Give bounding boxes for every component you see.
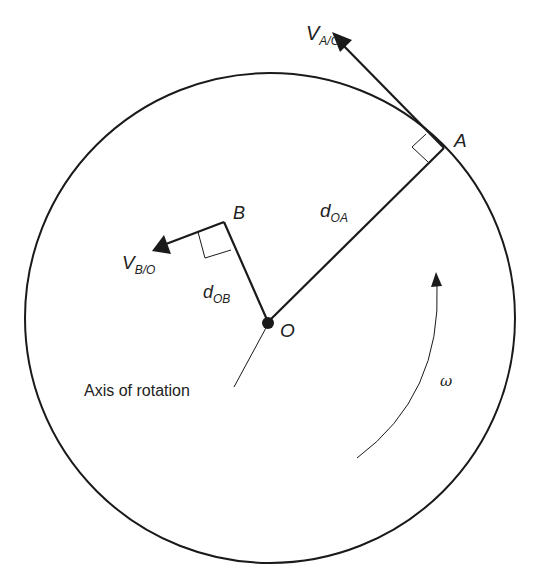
distance-oa-label: dOA xyxy=(320,200,348,222)
velocity-b-subscript: B/O xyxy=(135,263,156,277)
velocity-a-symbol: V xyxy=(306,22,319,44)
axis-of-rotation-label: Axis of rotation xyxy=(84,382,190,400)
velocity-b-label: VB/O xyxy=(122,252,155,274)
velocity-a-arrow xyxy=(338,40,444,148)
radius-ob-line xyxy=(224,222,268,322)
distance-oa-symbol: d xyxy=(320,200,331,221)
omega-arrowhead-icon xyxy=(431,272,442,287)
velocity-b-symbol: V xyxy=(122,252,135,273)
right-angle-a-icon xyxy=(412,134,428,162)
point-a-label: A xyxy=(454,130,467,152)
velocity-a-label: VA/O xyxy=(306,22,340,45)
distance-ob-subscript: OB xyxy=(213,292,230,306)
velocity-b-arrow xyxy=(166,222,224,244)
center-point-o xyxy=(262,317,274,329)
radius-oa-line xyxy=(268,148,444,322)
right-angle-b-icon xyxy=(198,232,231,258)
omega-rotation-arc xyxy=(357,284,437,458)
axis-leader-line xyxy=(234,326,267,387)
distance-ob-symbol: d xyxy=(203,282,213,302)
diagram-canvas xyxy=(0,0,535,580)
distance-ob-label: dOB xyxy=(203,282,230,303)
point-b-label: B xyxy=(233,203,245,224)
distance-oa-subscript: OA xyxy=(331,211,348,225)
omega-label: ω xyxy=(440,372,452,390)
point-o-label: O xyxy=(280,320,295,342)
velocity-a-subscript: A/O xyxy=(319,34,340,48)
